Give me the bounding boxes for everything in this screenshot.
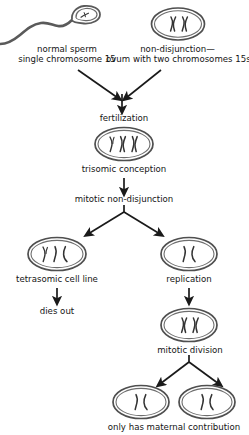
daughter-cell-right (179, 386, 235, 419)
diagram-svg (0, 0, 249, 435)
sperm-cell (0, 6, 100, 44)
ovum-to-fertilization-arrow (126, 70, 161, 98)
trisomic-zygote-cell (95, 128, 153, 161)
split-to-replication-arrow (124, 212, 160, 234)
mitotic-division-cell (161, 309, 217, 342)
label-tetrasomic-cell-line: tetrasomic cell line (2, 274, 112, 284)
diagram-root: normal sperm single chromosome 15 non-di… (0, 0, 249, 435)
label-ovum-line1: non-disjunction— (106, 44, 249, 54)
split-to-tetrasomic-arrow (88, 212, 124, 234)
label-ovum-nondisjunction: non-disjunction— ovum with two chromosom… (106, 44, 249, 65)
label-mitotic-nondisjunction: mitotic non-disjunction (50, 194, 198, 204)
label-fertilization: fertilization (74, 113, 174, 123)
label-ovum-line2: ovum with two chromosomes 15s (106, 54, 249, 64)
label-replication: replication (153, 274, 225, 284)
ovum-cell (152, 8, 205, 40)
tetrasomic-cell (28, 238, 86, 271)
label-trisomic-conception: trisomic conception (62, 164, 186, 174)
division-to-daughter-left-arrow (160, 362, 189, 384)
label-dies-out: dies out (22, 306, 92, 316)
label-maternal-contribution: only has maternal contribution (99, 422, 249, 432)
label-mitotic-division: mitotic division (145, 345, 235, 355)
replication-cell (161, 238, 217, 271)
division-to-daughter-right-arrow (189, 362, 219, 384)
daughter-cell-left (113, 386, 169, 419)
sperm-to-fertilization-arrow (78, 70, 118, 98)
